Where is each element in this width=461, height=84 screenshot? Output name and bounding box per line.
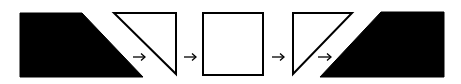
arrow-1-icon xyxy=(133,54,145,61)
filled-trapezoid-right-shape xyxy=(320,12,444,77)
outline-square-shape xyxy=(203,13,263,75)
arrow-2-icon xyxy=(184,54,196,61)
arrow-3-icon xyxy=(272,54,284,61)
arrow-4-icon xyxy=(318,54,331,61)
diagram-stage xyxy=(0,0,461,84)
shape-sequence-diagram xyxy=(0,0,461,84)
arrows-layer xyxy=(133,54,331,61)
shapes-layer xyxy=(20,12,444,77)
